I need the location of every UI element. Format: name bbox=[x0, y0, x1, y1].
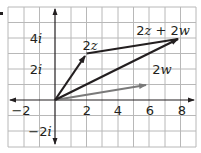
label-2z-plus-2w: 2z + 2w bbox=[136, 23, 190, 38]
x-tick-6: 6 bbox=[146, 103, 154, 118]
label-2w: 2w bbox=[152, 62, 171, 77]
imaginary-axis-up-arrow-icon bbox=[53, 8, 58, 15]
label-2z: 2z bbox=[82, 38, 97, 53]
real-axis-right-arrow-icon bbox=[188, 98, 195, 103]
complex-plane-figure: 4i 2i −2i −2 2 4 6 8 2z 2w 2z + 2w bbox=[0, 0, 201, 153]
x-tick-2: 2 bbox=[83, 103, 91, 118]
y-tick-4i: 4i bbox=[30, 31, 42, 46]
y-tick-neg2i: −2i bbox=[28, 124, 51, 139]
y-tick-2i: 2i bbox=[30, 62, 42, 77]
x-tick-4: 4 bbox=[114, 103, 122, 118]
x-tick-8: 8 bbox=[178, 103, 186, 118]
real-axis-left-arrow-icon bbox=[9, 98, 16, 103]
imaginary-axis-down-arrow-icon bbox=[53, 138, 58, 145]
x-tick-neg2: −2 bbox=[11, 103, 30, 118]
